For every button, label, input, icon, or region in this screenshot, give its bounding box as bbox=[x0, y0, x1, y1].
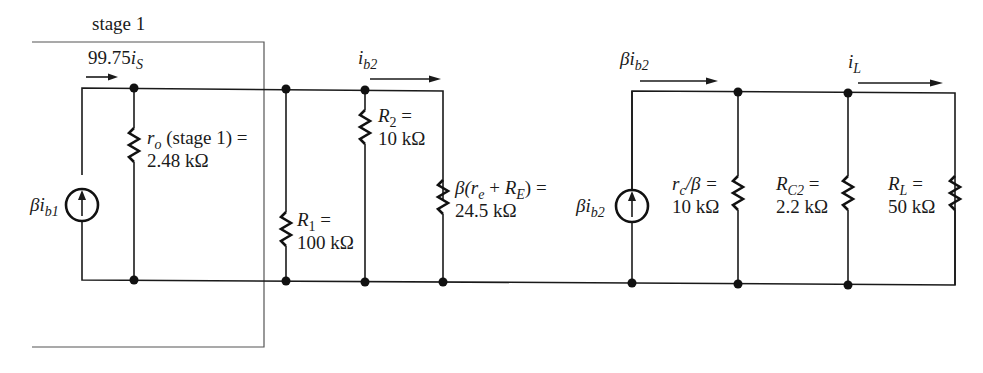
stage-1-box: stage 1 bbox=[32, 13, 264, 347]
svg-text:RC2 =: RC2 = bbox=[775, 173, 819, 198]
R2-value: 10 kΩ bbox=[378, 128, 425, 149]
arrow-right-icon bbox=[930, 80, 943, 87]
node bbox=[734, 280, 743, 289]
circuit-diagram: stage 1 βib1 ro (stage 1) = 2.48 kΩ bbox=[0, 0, 983, 373]
current-arrow-ib2: ib2 bbox=[358, 47, 441, 83]
resistor-zigzag-icon bbox=[360, 110, 370, 144]
current-arrow-iL: iL bbox=[848, 51, 943, 87]
arrow-right-icon bbox=[108, 74, 118, 81]
svg-text:βib2: βib2 bbox=[619, 48, 649, 73]
node bbox=[361, 86, 370, 95]
arrow-right-icon bbox=[706, 78, 718, 85]
source-label-beta-ib1: βib1 bbox=[29, 194, 59, 219]
node bbox=[282, 277, 291, 286]
node bbox=[130, 276, 139, 285]
current-arrow-beta-ib2: βib2 bbox=[619, 48, 718, 85]
right-circuit: βib2 rc/β = 10 kΩ RC2 = 2.2 kΩ bbox=[575, 48, 960, 290]
resistor-rc-beta: rc/β = 10 kΩ bbox=[672, 92, 743, 284]
svg-text:rc/β =: rc/β = bbox=[672, 173, 718, 198]
current-source-stage1: βib1 bbox=[29, 189, 98, 221]
node bbox=[361, 278, 370, 287]
svg-text:ro (stage 1) =: ro (stage 1) = bbox=[147, 127, 248, 152]
node bbox=[628, 279, 637, 288]
resistor-R1: R1 = 100 kΩ bbox=[281, 89, 354, 281]
node bbox=[130, 84, 139, 93]
node bbox=[734, 88, 743, 97]
current-arrow-99.75iS: 99.75iS bbox=[86, 47, 143, 81]
svg-text:ib2: ib2 bbox=[358, 47, 377, 72]
resistor-R2: R2 = 10 kΩ bbox=[360, 90, 425, 282]
ro-value: 2.48 kΩ bbox=[147, 150, 209, 171]
svg-text:R1 =: R1 = bbox=[296, 209, 331, 234]
svg-text:RL =: RL = bbox=[887, 173, 923, 198]
RL-value: 50 kΩ bbox=[888, 196, 935, 217]
node bbox=[844, 89, 853, 98]
resistor-zigzag-icon bbox=[843, 176, 853, 210]
resistor-RC2: RC2 = 2.2 kΩ bbox=[775, 93, 853, 285]
source-label-beta-ib2: βib2 bbox=[575, 195, 605, 220]
resistor-ro: ro (stage 1) = 2.48 kΩ bbox=[129, 88, 248, 280]
svg-text:R2 =: R2 = bbox=[377, 105, 412, 130]
stage-1-label: stage 1 bbox=[92, 13, 145, 34]
svg-text:β(re + RE) =: β(re + RE) = bbox=[454, 177, 547, 202]
svg-text:99.75iS: 99.75iS bbox=[88, 47, 143, 72]
rc-beta-value: 10 kΩ bbox=[672, 196, 719, 217]
arrow-right-icon bbox=[429, 76, 441, 83]
resistor-RL: RL = 50 kΩ bbox=[887, 173, 960, 285]
resistor-zigzag-icon bbox=[733, 176, 743, 210]
node bbox=[439, 278, 448, 287]
R1-value: 100 kΩ bbox=[297, 232, 354, 253]
node bbox=[844, 281, 853, 290]
left-circuit: βib1 ro (stage 1) = 2.48 kΩ R1 = 100 kΩ bbox=[29, 47, 955, 287]
resistor-beta-re-RE: β(re + RE) = 24.5 kΩ bbox=[438, 177, 547, 282]
resistor-zigzag-icon bbox=[281, 212, 291, 246]
node bbox=[282, 85, 291, 94]
resistor-zigzag-icon bbox=[129, 128, 139, 162]
current-source-stage2: βib2 bbox=[575, 91, 648, 283]
svg-text:iL: iL bbox=[848, 51, 861, 76]
RC2-value: 2.2 kΩ bbox=[776, 196, 828, 217]
beta-re-RE-value: 24.5 kΩ bbox=[455, 200, 517, 221]
